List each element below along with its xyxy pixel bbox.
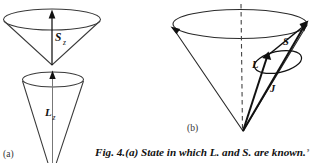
spin-axis-arrowhead (49, 10, 56, 19)
spin-precession-ellipse (252, 47, 303, 78)
panel-b-group: S L J (b) (171, 4, 309, 134)
panel-label-a: (a) (3, 149, 14, 160)
figure-container: S z L z (a) (0, 0, 317, 163)
orbital-z-label: L z (44, 106, 56, 122)
spin-cone-group (4, 9, 101, 65)
vector-s-label: S (283, 36, 289, 47)
panel-label-b: (b) (187, 123, 198, 134)
figure-caption: Fig. 4.(a) State in which L. and S. are … (95, 145, 317, 163)
total-cone-rim-ellipse (173, 10, 307, 39)
precession-axis-dashed (241, 4, 243, 131)
caption-figure-number: Fig. 4. (95, 146, 125, 158)
caption-trailing-mark: ’ (306, 146, 310, 158)
spin-z-label-symbol: S (55, 31, 61, 43)
vector-l-label: L (251, 59, 258, 70)
caption-text: (a) State in which L. and S. are known. (125, 146, 306, 158)
orbital-z-label-subscript: z (52, 113, 56, 122)
orbital-z-label-symbol: L (44, 106, 52, 118)
spin-z-label-subscript: z (62, 38, 66, 47)
spin-z-label: S z (55, 31, 66, 47)
vector-j-line (243, 27, 304, 132)
vector-j-label: J (269, 83, 276, 94)
figure-drawing: S z L z (a) (0, 0, 317, 163)
panel-a-group: S z L z (a) (3, 9, 101, 163)
